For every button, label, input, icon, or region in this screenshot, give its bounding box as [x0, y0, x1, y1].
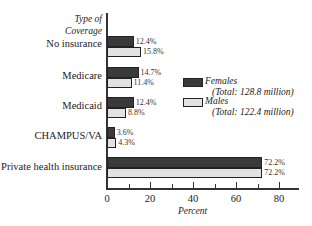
bar-value-label: 4.3%: [118, 138, 135, 147]
tick-label-40: 40: [188, 193, 199, 204]
y-axis-title-line2: Coverage: [40, 25, 102, 37]
category-label-medicaid: Medicaid: [62, 100, 102, 111]
tick-label-60: 60: [231, 193, 242, 204]
bar-females: [107, 36, 134, 47]
x-axis-tick: [258, 184, 259, 188]
y-axis-title-line1: Type of: [40, 13, 102, 25]
tick-label-20: 20: [145, 193, 156, 204]
bar-value-label: 72.2%: [264, 168, 285, 177]
bar-value-label: 15.8%: [143, 47, 164, 56]
category-label-medicare: Medicare: [62, 70, 102, 81]
bar-females: [107, 67, 139, 78]
x-axis-tick: [172, 184, 173, 188]
legend-total-males: (Total: 122.4 million): [212, 107, 294, 117]
legend-swatch-males: [183, 98, 203, 107]
legend-label-males: Males: [205, 96, 228, 106]
bar-value-label: 12.4%: [136, 37, 157, 46]
bar-females: [107, 157, 262, 168]
bar-males: [107, 108, 126, 119]
x-axis-line: [106, 188, 299, 190]
bar-males: [107, 78, 132, 89]
bar-males: [107, 138, 116, 149]
x-axis-tick: [150, 182, 151, 188]
tick-label-80: 80: [274, 193, 285, 204]
bar-value-label: 14.7%: [141, 68, 162, 77]
legend-swatch-females: [183, 78, 203, 87]
category-label-no-insurance: No insurance: [46, 38, 102, 49]
bar-females: [107, 127, 115, 138]
tick-label-0: 0: [104, 193, 109, 204]
y-axis-title: Type of Coverage: [40, 13, 102, 37]
x-axis-tick: [236, 182, 237, 188]
bar-value-label: 8.8%: [128, 108, 145, 117]
bar-females: [107, 97, 134, 108]
bar-value-label: 12.4%: [136, 98, 157, 107]
bar-value-label: 72.2%: [264, 158, 285, 167]
legend-label-females: Females: [205, 76, 237, 86]
category-label-private: Private health insurance: [1, 161, 102, 172]
category-label-champus-va: CHAMPUS/VA: [35, 130, 103, 141]
x-axis-tick: [279, 182, 280, 188]
bar-males: [107, 47, 141, 58]
bar-value-label: 3.6%: [117, 128, 134, 137]
bar-value-label: 11.4%: [134, 78, 154, 87]
x-axis-tick: [215, 184, 216, 188]
x-axis-tick: [129, 184, 130, 188]
x-axis-tick: [193, 182, 194, 188]
x-axis-title: Percent: [178, 206, 207, 216]
bar-males: [107, 168, 262, 179]
